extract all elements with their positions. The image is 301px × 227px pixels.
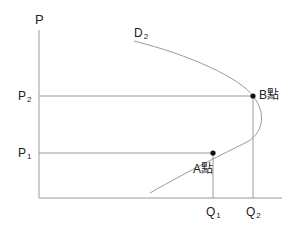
- curve-label-d2: D2: [134, 27, 148, 41]
- curve-label-main: D: [134, 26, 143, 40]
- point-label-a: A點: [193, 163, 213, 175]
- point-b: [250, 93, 255, 98]
- price-label-sub: 1: [27, 152, 31, 161]
- point-label-b: B點: [259, 89, 279, 101]
- quantity-label-q1: Q1: [206, 206, 221, 220]
- quantity-label-main: Q: [246, 205, 255, 219]
- price-label-sub: 2: [27, 95, 31, 104]
- y-axis-label: P: [35, 13, 44, 26]
- curve-label-sub: 2: [144, 32, 148, 41]
- quantity-label-sub: 2: [256, 211, 260, 220]
- quantity-label-q2: Q2: [246, 206, 261, 220]
- quantity-label-sub: 1: [216, 211, 220, 220]
- quantity-label-main: Q: [206, 205, 215, 219]
- price-label-main: P: [18, 89, 26, 103]
- price-label-p2: P2: [18, 90, 31, 104]
- diagram-canvas: [0, 0, 301, 227]
- point-a: [210, 150, 215, 155]
- price-label-p1: P1: [18, 147, 31, 161]
- price-label-main: P: [18, 146, 26, 160]
